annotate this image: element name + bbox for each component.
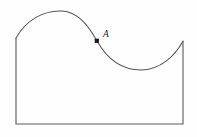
sinusoidal-curve bbox=[16, 11, 183, 70]
figure-container: A bbox=[0, 0, 197, 137]
figure-drawing: A bbox=[0, 0, 197, 137]
point-a-label: A bbox=[102, 29, 109, 39]
point-a-marker bbox=[95, 39, 99, 43]
region-outline bbox=[16, 38, 183, 124]
